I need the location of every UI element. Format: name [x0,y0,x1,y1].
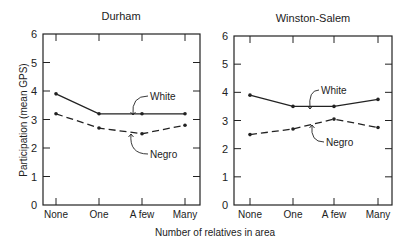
x-tick-label: Many [366,209,390,220]
data-point [248,93,252,97]
y-tick-label: 1 [31,171,37,183]
y-tick-label: 2 [222,143,228,155]
x-tick-label: One [284,209,303,220]
y-tick-label: 6 [222,30,228,42]
series-label-negro: Negro [150,149,178,160]
plot-frame [43,34,200,205]
x-tick-label: A few [322,209,347,220]
y-tick-label: 2 [31,142,37,154]
panel-title: Winston-Salem [276,12,351,24]
y-tick-label: 0 [222,199,228,211]
data-point [248,133,252,137]
y-tick-label: 5 [31,57,37,69]
data-point [54,92,58,96]
data-point [376,126,380,130]
winston-salem-panel: Winston-Salem0123456NoneOneA fewManyWhit… [222,12,392,220]
data-point [332,117,336,121]
y-tick-label: 4 [31,85,37,97]
y-tick-label: 0 [31,199,37,211]
data-point [291,105,295,109]
data-point [183,112,187,116]
y-axis-label: Participation (mean GPS) [18,63,29,176]
x-tick-label: One [90,209,109,220]
series-label-negro: Negro [326,137,354,148]
x-tick-label: None [238,209,262,220]
data-point [183,123,187,127]
x-tick-label: A few [130,209,155,220]
y-tick-label: 1 [222,171,228,183]
durham-panel: Durham0123456NoneOneA fewManyWhiteNegro [31,10,200,220]
data-point [332,105,336,109]
y-tick-label: 3 [222,115,228,127]
data-point [140,132,144,136]
data-point [376,98,380,102]
x-tick-label: None [44,209,68,220]
y-tick-label: 5 [222,58,228,70]
plot-frame [234,36,392,205]
data-point [291,127,295,131]
y-tick-label: 4 [222,86,228,98]
x-axis-label: Number of relatives in area [155,227,275,238]
series-label-white: White [150,91,176,102]
series-label-white: White [321,85,347,96]
panel-title: Durham [101,10,140,22]
data-point [54,112,58,116]
series-negro-line [56,114,185,134]
data-point [140,112,144,116]
y-tick-label: 3 [31,114,37,126]
figure: Durham0123456NoneOneA fewManyWhiteNegro … [0,0,411,248]
data-point [97,126,101,130]
x-tick-label: Many [173,209,197,220]
data-point [97,112,101,116]
series-white-line [250,95,378,106]
y-tick-label: 6 [31,28,37,40]
